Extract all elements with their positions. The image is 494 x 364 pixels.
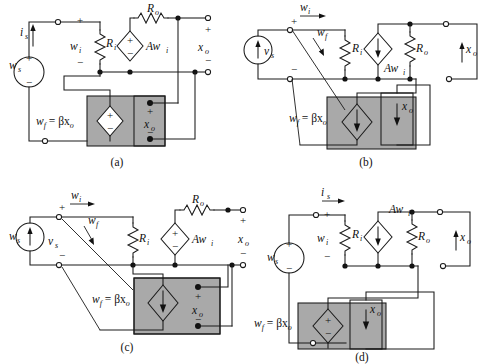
panel-b-output-current-arrow [459,42,464,49]
panel-d-fb-plus: + [325,314,331,326]
panel-b-feedback-current-sub: f [325,32,329,41]
panel-d: + − [254,186,471,364]
panel-c-output-label: x [237,233,244,245]
panel-a-fb-minus: − [107,122,113,134]
panel-d-input-terminal-top [313,212,318,217]
panel-a-input-current-label: i [20,26,23,38]
panel-d-fb-minus: − [325,327,331,339]
panel-c-output-terminal-top [240,207,245,212]
panel-b-output-terminal-top [443,21,448,26]
panel-c-output-minus: − [240,247,246,259]
panel-b-input-terminal-top [287,27,292,32]
panel-b-input-current-arrow [319,13,326,18]
panel-d-input-current-sub: s [327,192,330,201]
panel-a-dep-sub: i [166,46,168,55]
panel-a-ri-label: R [105,37,113,49]
panel-d-input-terminal-bottom [310,340,315,345]
panel-c-ro-label: R [191,193,199,205]
panel-a-input-terminal-top [55,19,60,24]
panel-d-input-current-label: i [321,186,324,198]
panel-a-source-label: w [9,59,17,71]
panel-a-fb-plus: + [107,109,113,121]
panel-c-input-current-label: w [71,189,79,201]
panel-a-dep-plus: + [127,34,133,46]
panel-d-output-current-arrow [453,230,458,237]
panel-a-input-voltage-sub: i [79,46,81,55]
panel-c-caption: (c) [121,341,134,354]
panel-b-feedback-arrow [319,49,324,56]
panel-b-output-sub: o [473,49,477,58]
panel-c-ro-sub: o [200,199,204,208]
panel-b-sense-sub: o [409,106,413,115]
panel-d-sense-label: x [369,303,376,315]
panel-a-output-label: x [197,41,204,53]
panel-c-ri-label: R [138,232,146,244]
panel-d-ro-sub: o [426,236,430,245]
panel-a-output-terminal-top [205,15,210,20]
panel-b-dep-label: Aw [383,62,398,74]
panel-c-source-sub: s [17,236,20,245]
panel-c-input-current-sub: i [79,195,81,204]
panel-a-dep-label: Aw [145,40,160,52]
panel-a-source-current-arrow [30,24,35,31]
panel-c-output-plus: + [240,214,246,226]
panel-a-output-minus: − [205,54,211,66]
panel-d-dep-sub: i [408,209,410,218]
panel-a-output-terminal-bottom [205,69,210,74]
panel-d-input-voltage-sub: i [326,238,328,247]
panel-c-dep-label: Aw [191,233,206,245]
panel-b-input-current-label: w [300,1,308,13]
panel-b-source-label: v [264,45,270,57]
panel-c-source-inner-sub: s [55,241,58,250]
panel-b-output-terminal-bottom [446,76,451,81]
panel-b-ro-sub: o [424,48,428,57]
panel-a-wi-plus: + [77,14,83,26]
panel-c-output-terminal-bottom [240,262,245,267]
panel-c-source-minus: − [59,249,65,261]
panel-d-caption: (d) [355,351,369,364]
panel-a-dep-minus: − [127,47,133,59]
panel-a-input-voltage-label: w [70,40,78,52]
panel-c-dep-sub: i [211,239,213,248]
panel-a-sense-minus: − [147,126,153,138]
panel-d-input-voltage-label: w [317,232,325,244]
panel-b-dep-sub: i [403,68,405,77]
panel-b-ri-label: R [351,42,359,54]
panel-d-wi-plus: + [324,208,330,220]
panel-a-output-plus: + [205,23,211,35]
panel-b-source-sub: s [271,51,274,60]
panel-c-ri-sub: i [147,238,149,247]
panel-a-ro-label: R [146,2,154,14]
panel-d-output-sub: o [467,237,471,246]
panel-c-sense-minus: − [195,313,201,325]
panel-d-ro-label: R [417,230,425,242]
panel-c-source-label: w [9,230,17,242]
panel-b-ri-sub: i [360,48,362,57]
panel-a-source-label-sub: s [18,65,21,74]
panel-b: v s + − w i w f R i Aw i R o x o wf = βx… [244,1,477,169]
panel-d-source-sub: s [275,257,278,266]
panel-c-input-terminal-bottom [56,262,61,267]
panel-c-source-inner-label: v [48,235,54,247]
panel-b-feedback-equation: wf = βxo [289,112,327,127]
panel-a-wi-minus: − [77,56,83,68]
panel-d-ri-label: R [351,228,359,240]
panel-d-dep-label: Aw [388,203,403,215]
panel-c-feedback-equation: wf = βxo [92,293,130,308]
panel-d-source-label: w [267,251,275,263]
panel-a-input-current-sub: s [25,32,28,41]
panel-c-feedback-current-sub: f [96,220,100,229]
panel-d-source-minus: − [286,262,292,274]
panel-c-dep-minus: − [172,240,178,252]
panel-d-output-terminal-bottom [440,263,445,268]
panel-d-ri-sub: i [360,234,362,243]
panel-d-sense-sub: o [377,309,381,318]
panel-d-feedback-equation: wf = βxo [254,317,292,332]
panel-c-dep-plus: + [172,227,178,239]
panel-a-input-terminal-bottom [42,138,47,143]
panel-b-feedback-current-label: w [317,26,325,38]
panel-d-input-current-arrow [338,198,345,203]
panel-d-wi-minus: − [324,250,330,262]
panel-b-caption: (b) [359,156,373,169]
panel-a-ro-sub: o [155,8,159,17]
